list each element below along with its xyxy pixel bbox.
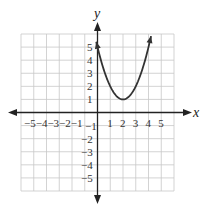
y-tick-label: −5 <box>81 172 93 184</box>
y-axis-up-arrow-icon <box>94 22 101 31</box>
x-tick-label: 2 <box>120 117 126 129</box>
y-tick-label: 4 <box>87 54 93 66</box>
x-axis-left-arrow-icon <box>8 109 17 116</box>
y-tick-label: 5 <box>87 41 93 53</box>
y-tick-label: −3 <box>81 146 93 158</box>
x-negative-tick-labels: −5−4−3−2−1 <box>24 117 83 129</box>
x-axis-right-arrow-icon <box>183 109 192 116</box>
x-axis-label: x <box>192 105 200 120</box>
y-tick-label: 3 <box>87 67 93 79</box>
y-tick-label: −4 <box>81 159 93 171</box>
y-tick-label: 1 <box>87 93 93 105</box>
y-tick-label: −2 <box>81 133 93 145</box>
x-tick-label: 3 <box>133 117 139 129</box>
axes <box>8 22 192 204</box>
y-axis-label: y <box>92 6 101 21</box>
x-tick-label: 4 <box>146 117 152 129</box>
x-tick-label: 5 <box>158 117 164 129</box>
y-tick-label: 2 <box>87 80 93 92</box>
y-tick-label: −1 <box>85 120 97 132</box>
parabola-curve <box>96 36 151 99</box>
y-axis-down-arrow-icon <box>94 195 101 204</box>
x-tick-label: 1 <box>107 117 113 129</box>
coordinate-plane: x y −5−4−3−2−1 1234554321−1−2−3−4−5 <box>0 0 210 207</box>
